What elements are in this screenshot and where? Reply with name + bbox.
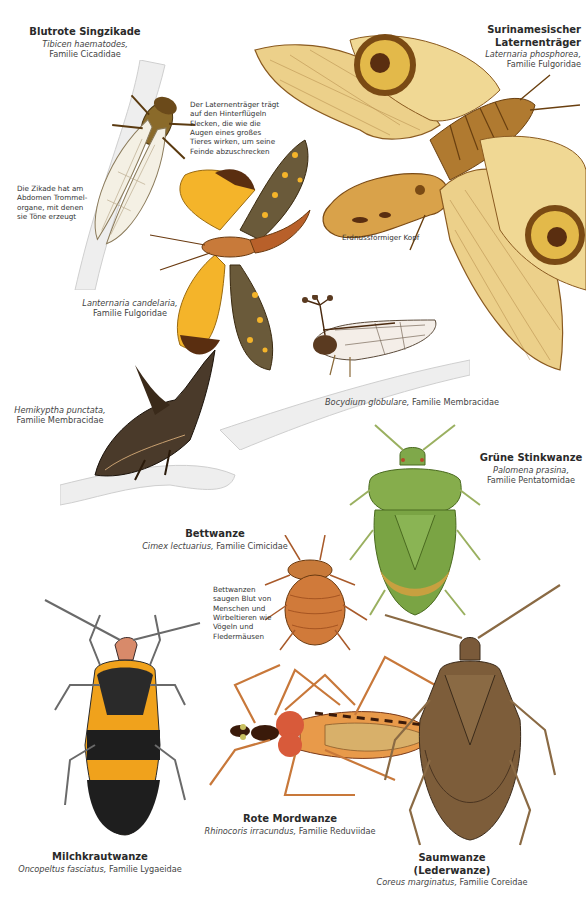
common-name: Milchkrautwanze — [5, 851, 195, 864]
species-label-milchkrautwanze: Milchkrautwanze Oncopeltus fasciatus, Fa… — [5, 851, 195, 874]
latin-name: Hemikyptha punctata, — [14, 405, 105, 415]
latin-name: Oncopeltus fasciatus, — [18, 864, 106, 874]
species-label-bettwanze: Bettwanze Cimex lectuarius, Familie Cimi… — [140, 528, 290, 551]
common-name-line1: Saumwanze — [372, 852, 532, 865]
note-bettwanze: Bettwanzen saugen Blut von Menschen und … — [213, 585, 293, 641]
note-line: Augen eines großes — [190, 128, 310, 137]
latin-name: Rhinocoris irracundus, — [205, 826, 297, 836]
note-line: Bettwanzen — [213, 585, 293, 594]
family-name: Familie Fulgoridae — [75, 308, 185, 318]
species-label-saumwanze: Saumwanze (Lederwanze) Coreus marginatus… — [372, 852, 532, 887]
note-line: saugen Blut von — [213, 594, 293, 603]
note-line: Vögeln und — [213, 622, 293, 631]
common-name: Blutrote Singzikade — [10, 26, 160, 39]
note-line: Fledermäusen — [213, 632, 293, 641]
latin-name: Lanternaria candelaria, — [82, 298, 177, 308]
note-line: Flecken, die wie die — [190, 119, 310, 128]
latin-name: Cimex lectuarius, — [142, 541, 213, 551]
latin-name: Laternaria phosphorea, — [485, 49, 581, 59]
family-name: Familie Cimicidae — [216, 541, 288, 551]
dock-bug-illustration — [370, 580, 570, 850]
common-name-line2: (Lederwanze) — [372, 865, 532, 878]
family-name: Familie Coreidae — [460, 877, 528, 887]
species-label-surinamesischer-laternentraeger: Surinamesischer Laternenträger Laternari… — [466, 24, 581, 70]
common-name: Rote Mordwanze — [195, 813, 385, 826]
note-line: Tieres wirken, um seine — [190, 137, 310, 146]
family-name: Familie Lygaeidae — [109, 864, 182, 874]
note-line: auf den Hinterflügeln — [190, 109, 310, 118]
latin-name: Tibicen haematodes, — [42, 39, 128, 49]
note-line: sie Töne erzeugt — [17, 212, 107, 221]
candelaria-illustration — [130, 135, 320, 375]
latin-name: Palomena prasina, — [493, 465, 569, 475]
species-label-bocydium-globulare: Bocydium globulare, Familie Membracidae — [325, 397, 525, 407]
latin-name: Bocydium globulare, — [325, 397, 409, 407]
family-name: Familie Fulgoridae — [466, 59, 581, 69]
family-name: Familie Reduviidae — [299, 826, 376, 836]
common-name: Bettwanze — [140, 528, 290, 541]
latin-name: Coreus marginatus, — [377, 877, 458, 887]
family-name: Familie Membracidae — [10, 415, 110, 425]
note-line: organe, mit denen — [17, 203, 107, 212]
note-laternentraeger: Der Laternenträger trägt auf den Hinterf… — [190, 100, 310, 156]
family-name: Familie Pentatomidae — [478, 475, 584, 485]
common-name-line2: Laternenträger — [466, 37, 581, 50]
milkweed-bug-illustration — [25, 595, 205, 840]
common-name: Grüne Stinkwanze — [478, 452, 584, 465]
family-name: Familie Cicadidae — [10, 49, 160, 59]
note-kopf: Erdnussförmiger Kopf — [342, 233, 442, 242]
note-zikade: Die Zikade hat am Abdomen Trommel- organ… — [17, 184, 107, 221]
note-line: Die Zikade hat am — [17, 184, 107, 193]
note-line: Der Laternenträger trägt — [190, 100, 310, 109]
species-label-lanternaria-candelaria: Lanternaria candelaria, Familie Fulgorid… — [75, 298, 185, 319]
species-label-gruene-stinkwanze: Grüne Stinkwanze Palomena prasina, Famil… — [478, 452, 584, 485]
bocydium-illustration — [295, 295, 445, 380]
note-line: Menschen und — [213, 604, 293, 613]
family-name: Familie Membracidae — [412, 397, 499, 407]
note-line: Wirbeltieren wie — [213, 613, 293, 622]
species-label-blutrote-singzikade: Blutrote Singzikade Tibicen haematodes, … — [10, 26, 160, 59]
species-label-rote-mordwanze: Rote Mordwanze Rhinocoris irracundus, Fa… — [195, 813, 385, 836]
note-line: Feinde abzuschrecken — [190, 147, 310, 156]
species-label-hemikyptha-punctata: Hemikyptha punctata, Familie Membracidae — [10, 405, 110, 426]
note-line: Abdomen Trommel- — [17, 193, 107, 202]
common-name-line1: Surinamesischer — [466, 24, 581, 37]
